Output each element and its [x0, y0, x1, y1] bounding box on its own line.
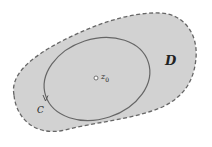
region-contour-diagram: z0 D C	[0, 0, 212, 147]
region-d-label: D	[164, 53, 177, 68]
point-z0	[94, 76, 98, 80]
contour-c-label: C	[37, 105, 44, 115]
